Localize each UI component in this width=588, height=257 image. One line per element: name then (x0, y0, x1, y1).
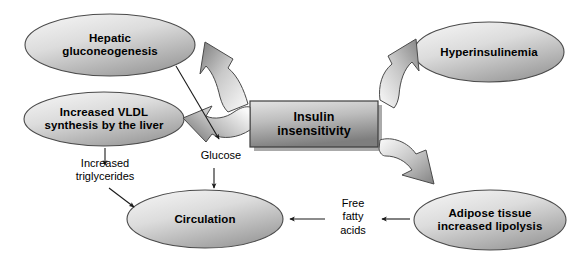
node-shape-circulation (127, 190, 283, 248)
node-shape-hepatic-gluconeogenesis (25, 14, 195, 76)
arrow-triglycerides-to-circulation (109, 188, 134, 207)
arrow-insulin-to-hepatic (200, 42, 248, 112)
arrow-insulin-to-adipose (379, 139, 434, 184)
arrow-insulin-to-hyperinsulinemia (380, 39, 420, 108)
node-shape-hyperinsulinemia (414, 22, 564, 82)
node-shape-increased-vldl (24, 92, 184, 146)
node-shape-insulin-insensitivity (250, 101, 382, 151)
insulin-insensitivity-diagram: Hepatic gluconeogenesis Increased VLDL s… (0, 0, 588, 257)
arrow-insulin-to-vldl (183, 106, 250, 142)
node-shape-adipose-tissue (414, 190, 566, 250)
diagram-canvas (0, 0, 588, 257)
